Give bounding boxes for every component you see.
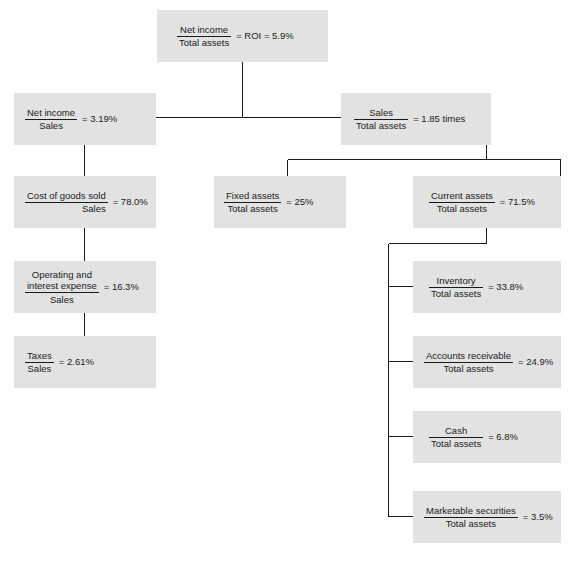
node-net-income-sales: Net income Sales = 3.19% [14, 93, 156, 145]
node-result: = 25% [286, 196, 313, 207]
fraction-numerator: Cost of goods sold [25, 190, 108, 202]
fraction-numerator: Current assets [429, 190, 495, 202]
fraction-denominator: Total assets [429, 437, 483, 450]
fraction-current-assets: Current assets Total assets [429, 190, 495, 214]
fraction-numerator: Sales [367, 107, 395, 119]
node-accounts-receivable: Accounts receivable Total assets = 24.9% [413, 336, 561, 388]
fraction-numerator: Marketable securities [424, 505, 518, 517]
node-sales-total-assets: Sales Total assets = 1.85 times [341, 93, 491, 145]
roi-decomposition-diagram: Net income Total assets = ROI = 5.9% Net… [0, 0, 578, 561]
fraction-net-income-sales: Net income Sales [25, 107, 77, 131]
fraction-numerator: Taxes [25, 350, 54, 362]
node-result: = 3.5% [523, 511, 553, 522]
fraction-numerator: Net income [178, 24, 230, 36]
fraction-denominator: Sales [25, 119, 77, 132]
fraction-cash: Cash Total assets [429, 425, 483, 449]
node-result: = 33.8% [488, 281, 523, 292]
node-result: = 2.61% [59, 356, 94, 367]
fraction-denominator: Total assets [429, 287, 483, 300]
node-current-assets: Current assets Total assets = 71.5% [413, 176, 561, 228]
node-result: = ROI = 5.9% [236, 30, 294, 41]
node-result: = 24.9% [518, 356, 553, 367]
fraction-numerator-line1: Operating and [32, 269, 92, 280]
fraction-operating-interest-expense: Operating and interest expense Sales [25, 269, 99, 305]
node-result: = 16.3% [104, 281, 139, 292]
fraction-numerator: Net income [25, 107, 77, 119]
node-operating-interest-expense: Operating and interest expense Sales = 1… [14, 261, 156, 313]
node-inventory: Inventory Total assets = 33.8% [413, 261, 561, 313]
fraction-taxes-sales: Taxes Sales [25, 350, 54, 374]
fraction-denominator: Sales [25, 202, 108, 215]
node-result: = 78.0% [113, 196, 148, 207]
node-result: = 71.5% [500, 196, 535, 207]
fraction-denominator: Total assets [424, 362, 513, 375]
node-fixed-assets: Fixed assets Total assets = 25% [214, 176, 346, 228]
node-cash: Cash Total assets = 6.8% [413, 411, 561, 463]
fraction-inventory: Inventory Total assets [429, 275, 483, 299]
fraction-numerator: Operating and interest expense [25, 269, 99, 292]
node-taxes-sales: Taxes Sales = 2.61% [14, 336, 156, 388]
node-result: = 3.19% [82, 113, 117, 124]
fraction-sales-total-assets: Sales Total assets [354, 107, 408, 131]
fraction-accounts-receivable: Accounts receivable Total assets [424, 350, 513, 374]
node-cost-of-goods-sold: Cost of goods sold Sales = 78.0% [14, 176, 156, 228]
fraction-cost-of-goods-sold: Cost of goods sold Sales [25, 190, 108, 214]
fraction-numerator: Accounts receivable [424, 350, 513, 362]
node-result: = 6.8% [488, 431, 518, 442]
fraction-numerator-line2: interest expense [27, 280, 97, 291]
fraction-denominator: Total assets [424, 517, 518, 530]
node-roi: Net income Total assets = ROI = 5.9% [157, 10, 328, 62]
fraction-denominator: Total assets [177, 36, 231, 49]
fraction-denominator: Sales [25, 292, 99, 305]
node-result: = 1.85 times [413, 113, 465, 124]
fraction-numerator: Inventory [435, 275, 478, 287]
fraction-denominator: Total assets [224, 202, 281, 215]
node-marketable-securities: Marketable securities Total assets = 3.5… [413, 491, 561, 543]
fraction-fixed-assets: Fixed assets Total assets [224, 190, 281, 214]
fraction-marketable-securities: Marketable securities Total assets [424, 505, 518, 529]
fraction-numerator: Cash [443, 425, 469, 437]
fraction-denominator: Sales [25, 362, 54, 375]
fraction-denominator: Total assets [429, 202, 495, 215]
fraction-denominator: Total assets [354, 119, 408, 132]
fraction-numerator: Fixed assets [224, 190, 281, 202]
fraction-roi: Net income Total assets [177, 24, 231, 48]
